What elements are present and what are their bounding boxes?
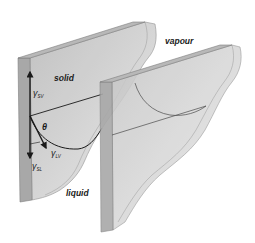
label-solid: solid — [54, 73, 75, 83]
label-liquid: liquid — [66, 188, 89, 198]
contact-angle-diagram: solid vapour liquid θ γSV γSL γLV — [0, 0, 255, 243]
label-theta: θ — [42, 122, 47, 132]
label-vapour: vapour — [165, 36, 194, 46]
